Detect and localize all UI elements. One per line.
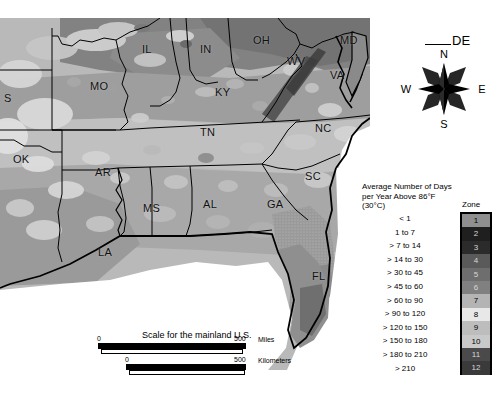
compass-label-east: E [478, 83, 485, 95]
legend-range-label: > 120 to 150 [362, 321, 454, 335]
map-figure: S IL IN OH WV MD VA MO KY NC TN OK AR SC… [0, 0, 500, 401]
scale-miles-unit: Miles [258, 336, 274, 343]
scale-km-unit: Kilometers [258, 357, 291, 364]
scale-miles-max: 500 [234, 335, 246, 342]
scale-bar-kilometers: 0 500 Kilometers [126, 364, 246, 375]
legend-range-label: > 90 to 120 [362, 307, 454, 321]
legend-range-label: > 210 [362, 362, 454, 376]
legend-range-label: > 150 to 180 [362, 334, 454, 348]
legend-swatch-column: 123456789101112 [460, 212, 492, 375]
legend-zone-swatch: 3 [462, 241, 490, 254]
scale-km-max: 500 [234, 356, 246, 363]
legend-range-label: > 14 to 30 [362, 253, 454, 267]
legend-zone-header: Zone [462, 200, 480, 209]
legend-range-label: > 45 to 60 [362, 280, 454, 294]
compass-label-west: W [401, 83, 412, 95]
compass-label-south: S [440, 118, 447, 130]
compass-rose: N S E W [398, 46, 490, 132]
scale-miles-min: 0 [97, 335, 101, 342]
scale-bars: Scale for the mainland U.S. 0 500 Miles … [98, 330, 313, 378]
legend-zone-swatch: 9 [462, 321, 490, 334]
legend-range-label: > 7 to 14 [362, 239, 454, 253]
legend-zone-swatch: 8 [462, 308, 490, 321]
legend-zone-swatch: 10 [462, 335, 490, 348]
legend-zone-swatch: 11 [462, 348, 490, 361]
legend-range-label: > 180 to 210 [362, 348, 454, 362]
legend-range-label: 1 to 7 [362, 226, 454, 240]
delaware-leader-line [425, 44, 451, 45]
map-legend: Average Number of Days per Year Above 86… [362, 182, 494, 380]
legend-zone-swatch: 5 [462, 268, 490, 281]
legend-zone-swatch: 7 [462, 294, 490, 307]
legend-zone-swatch: 12 [462, 361, 490, 374]
scale-km-min: 0 [125, 356, 129, 363]
legend-range-label: > 60 to 90 [362, 294, 454, 308]
legend-range-label: > 30 to 45 [362, 266, 454, 280]
compass-label-north: N [440, 48, 448, 60]
scale-bar-miles: 0 500 Miles [98, 343, 246, 354]
legend-range-list: < 11 to 7> 7 to 14> 14 to 30> 30 to 45> … [362, 212, 454, 375]
legend-zone-swatch: 4 [462, 254, 490, 267]
legend-range-label: < 1 [362, 212, 454, 226]
legend-zone-swatch: 2 [462, 227, 490, 240]
legend-zone-swatch: 1 [462, 214, 490, 227]
legend-title: Average Number of Days per Year Above 86… [362, 182, 454, 211]
legend-zone-swatch: 6 [462, 281, 490, 294]
